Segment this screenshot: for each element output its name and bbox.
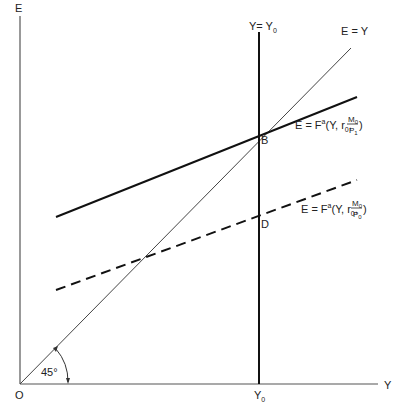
angle-arc: [56, 349, 68, 382]
arc-arrow-bottom: [66, 378, 70, 384]
y-axis-label: E: [15, 2, 22, 14]
x-axis-label: Y: [384, 379, 392, 391]
svg-text:E = Fa(Y, r0,: E = Fa(Y, r0,: [295, 118, 352, 133]
expenditure-line-p0: [56, 180, 357, 290]
angle-label: 45°: [41, 366, 58, 378]
expenditure-line-p1-label: E = Fa(Y, r0, M0 P1 ): [295, 115, 363, 136]
keynesian-cross-diagram: E Y O Y0 Y= Y0 E = Y 45° B D E = Fa(Y, r…: [0, 0, 401, 414]
svg-text:E = Fa(Y, r0,: E = Fa(Y, r0,: [301, 202, 358, 217]
svg-text:P1: P1: [349, 126, 358, 136]
svg-text:M0: M0: [352, 199, 363, 209]
vertical-line-label: Y= Y0: [249, 20, 277, 34]
svg-text:M0: M0: [348, 115, 359, 125]
forty-five-degree-line: [20, 48, 351, 384]
forty-five-line-label: E = Y: [341, 25, 369, 37]
svg-text:): ): [359, 119, 363, 131]
expenditure-line-p1: [56, 97, 357, 217]
x-tick-y0-label: Y0: [254, 389, 265, 403]
origin-label: O: [15, 389, 24, 401]
svg-text:): ): [363, 203, 367, 215]
expenditure-line-p0-label: E = Fa(Y, r0, M0 P0 ): [301, 199, 367, 220]
point-b-label: B: [261, 134, 268, 146]
point-d-label: D: [261, 218, 269, 230]
svg-text:P0: P0: [353, 210, 362, 220]
